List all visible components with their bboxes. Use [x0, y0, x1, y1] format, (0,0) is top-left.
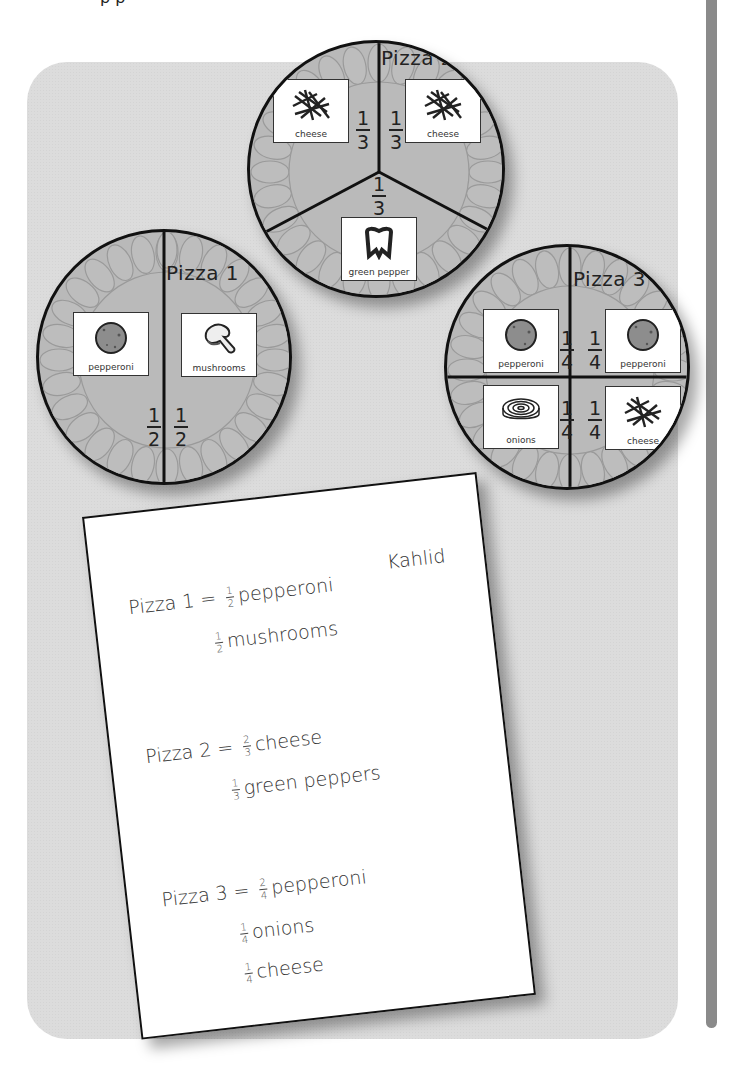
- fraction: 14: [239, 922, 250, 946]
- pepperoni-icon: [504, 318, 538, 352]
- topping-card-mushrooms: mushrooms: [181, 313, 257, 377]
- topping-label: onions: [506, 435, 536, 445]
- fraction: 23: [242, 734, 253, 758]
- topping-card-cheese: cheese: [273, 79, 349, 143]
- pepperoni-icon: [94, 321, 128, 355]
- topping-label: green pepper: [349, 267, 410, 277]
- entry-pizza-1: Pizza 1 = 12pepperoni: [127, 573, 334, 620]
- topping-card-cheese: cheese: [605, 386, 681, 450]
- topping-card-green-pepper: green pepper: [341, 217, 417, 281]
- fraction: 12: [225, 585, 236, 609]
- student-name: Kahlid: [386, 544, 447, 572]
- entry-pizza-3: Pizza 3 = 24pepperoni: [161, 865, 368, 912]
- topping-label: pepperoni: [88, 362, 133, 372]
- entry-line: 13green peppers: [227, 761, 382, 802]
- cropped-heading-text: p p: [100, 0, 360, 4]
- cheese-icon: [291, 88, 331, 122]
- entry-line: 12mushrooms: [210, 617, 339, 655]
- pizza-title: Pizza 2: [381, 46, 454, 70]
- topping-label: pepperoni: [498, 359, 543, 369]
- fraction-label: 14: [559, 329, 575, 371]
- mushroom-icon: [200, 322, 238, 356]
- fraction-label: 13: [355, 109, 371, 151]
- topping-card-pepperoni: pepperoni: [605, 309, 681, 373]
- fraction-label: 12: [173, 406, 189, 448]
- fraction-label: 13: [388, 109, 404, 151]
- margin-bar: [706, 0, 717, 1028]
- entry-pizza-2: Pizza 2 = 23cheese: [144, 725, 323, 769]
- worksheet-paper: Kahlid Pizza 1 = 12pepperoni 12mushrooms…: [82, 472, 536, 1040]
- pizza-3: Pizza 3 pepperoni pepperoni onions chees…: [444, 244, 690, 490]
- topping-card-onions: onions: [483, 385, 559, 449]
- cheese-icon: [423, 88, 463, 122]
- fraction: 24: [258, 877, 269, 901]
- fraction-label: 14: [559, 399, 575, 441]
- fraction-label: 13: [371, 175, 387, 217]
- topping-label: cheese: [627, 436, 659, 446]
- entry-line: 14cheese: [239, 953, 325, 986]
- topping-label: cheese: [295, 129, 327, 139]
- fraction: 12: [214, 631, 225, 655]
- fraction: 14: [243, 962, 254, 986]
- topping-card-cheese: cheese: [405, 79, 481, 143]
- pizza-title: Pizza 1: [166, 261, 239, 285]
- fraction-label: 12: [146, 406, 162, 448]
- fraction-label: 14: [587, 329, 603, 371]
- onion-icon: [501, 396, 541, 426]
- topping-label: mushrooms: [193, 363, 246, 373]
- cheese-icon: [623, 395, 663, 429]
- topping-card-pepperoni: pepperoni: [73, 312, 149, 376]
- topping-label: cheese: [427, 129, 459, 139]
- green-pepper-icon: [363, 226, 395, 260]
- topping-label: pepperoni: [620, 359, 665, 369]
- pizza-title: Pizza 3: [573, 267, 646, 291]
- fraction-label: 14: [587, 399, 603, 441]
- entry-line: 14onions: [235, 913, 316, 946]
- topping-card-pepperoni: pepperoni: [483, 309, 559, 373]
- pepperoni-icon: [626, 318, 660, 352]
- fraction: 13: [231, 778, 242, 802]
